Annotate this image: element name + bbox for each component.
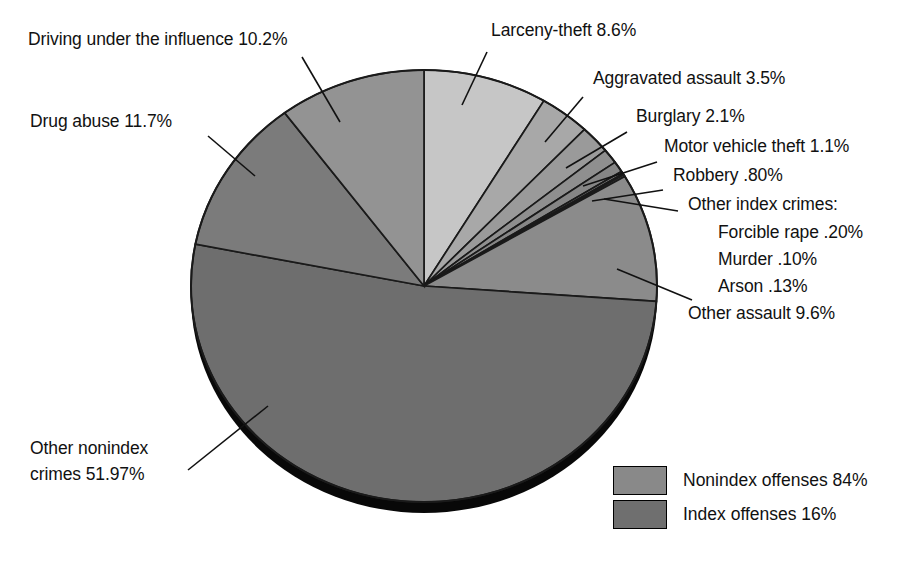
label-larceny-theft: Larceny-theft 8.6% <box>491 22 636 40</box>
label-murder: Murder .10% <box>718 251 817 269</box>
pie-chart-figure: Driving under the influence 10.2% Drug a… <box>0 0 921 571</box>
legend-label-nonindex-offenses: Nonindex offenses 84% <box>683 470 868 491</box>
legend-item-nonindex-offenses: Nonindex offenses 84% <box>613 467 913 494</box>
legend-swatch-nonindex-offenses <box>613 466 667 495</box>
label-aggravated-assault: Aggravated assault 3.5% <box>593 70 785 88</box>
label-motor-vehicle-theft: Motor vehicle theft 1.1% <box>664 138 849 156</box>
label-forcible-rape: Forcible rape .20% <box>718 224 863 242</box>
label-arson: Arson .13% <box>718 278 807 296</box>
label-other-nonindex-crimes-line1: Other nonindex <box>30 440 148 458</box>
label-other-nonindex-crimes-line2: crimes 51.97% <box>30 466 144 484</box>
label-burglary: Burglary 2.1% <box>636 108 745 126</box>
label-other-assault: Other assault 9.6% <box>688 305 835 323</box>
label-driving-under-the-influence: Driving under the influence 10.2% <box>28 31 287 49</box>
chart-legend: Nonindex offenses 84% Index offenses 16% <box>613 467 913 535</box>
label-other-index-crimes-header: Other index crimes: <box>688 196 838 214</box>
legend-swatch-index-offenses <box>613 500 667 529</box>
label-drug-abuse: Drug abuse 11.7% <box>30 113 172 131</box>
legend-label-index-offenses: Index offenses 16% <box>683 504 836 525</box>
pie-slices <box>191 70 657 502</box>
legend-item-index-offenses: Index offenses 16% <box>613 501 913 528</box>
label-robbery: Robbery .80% <box>673 167 783 185</box>
